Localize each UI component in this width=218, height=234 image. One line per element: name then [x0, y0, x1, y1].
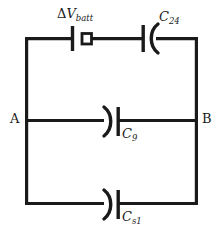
battery-short-plate-square: [82, 34, 92, 45]
battery-label-subscript: batt: [76, 13, 93, 23]
capacitor-c24-symbol: [143, 24, 158, 53]
top-branch: [25, 39, 198, 120]
c24-label-subscript: 24: [169, 16, 180, 26]
bottom-branch: [25, 120, 198, 204]
battery-label: ΔVbatt: [57, 7, 93, 20]
cs1-label-subscript: s1: [132, 216, 142, 226]
capacitor-c9-symbol: [104, 107, 118, 136]
c9-label-symbol: C: [122, 126, 132, 141]
battery-symbol: [73, 26, 92, 51]
capacitor-c24-label: C24: [159, 10, 180, 23]
circuit-diagram: ΔVbatt C24 C9 Cs1 A B: [0, 0, 218, 234]
battery-label-delta: Δ: [57, 6, 66, 21]
capacitor-c9-label: C9: [122, 127, 137, 140]
c9-curved-plate: [104, 107, 111, 136]
node-label-b: B: [202, 112, 212, 125]
capacitor-cs1-label: Cs1: [122, 210, 142, 223]
c9-label-subscript: 9: [132, 133, 137, 143]
battery-label-symbol: V: [66, 6, 75, 21]
c24-label-symbol: C: [159, 9, 169, 24]
circuit-schematic-canvas: [0, 0, 218, 234]
cs1-label-symbol: C: [122, 209, 132, 224]
capacitor-cs1-symbol: [104, 190, 118, 219]
cs1-curved-plate: [104, 190, 111, 219]
node-label-a: A: [10, 112, 19, 125]
